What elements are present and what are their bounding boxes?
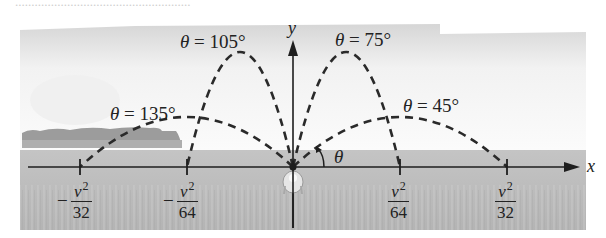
theta-symbol: θ xyxy=(110,103,119,124)
label-theta-135: θ = 135° xyxy=(110,103,176,125)
x-axis-label: x xyxy=(587,156,595,177)
theta-symbol: θ xyxy=(180,31,189,52)
tick-label-v2-64: v264 xyxy=(388,180,409,221)
cloud-shape xyxy=(30,75,120,125)
theta-symbol: θ xyxy=(403,95,412,116)
tick-label-neg-v2-64: − v264 xyxy=(163,180,198,221)
label-theta-105: θ = 105° xyxy=(180,31,246,53)
y-axis-label: y xyxy=(288,18,296,39)
label-theta-45: θ = 45° xyxy=(403,95,459,117)
origin-dot xyxy=(290,164,297,171)
angle-theta-label: θ xyxy=(334,146,343,168)
theta-symbol: θ xyxy=(335,29,344,50)
tick-label-neg-v2-32: − v232 xyxy=(57,180,92,221)
label-theta-75: θ = 75° xyxy=(335,29,391,51)
tick-label-v2-32: v232 xyxy=(495,180,516,221)
projectile-figure: ........................................… xyxy=(0,0,606,238)
